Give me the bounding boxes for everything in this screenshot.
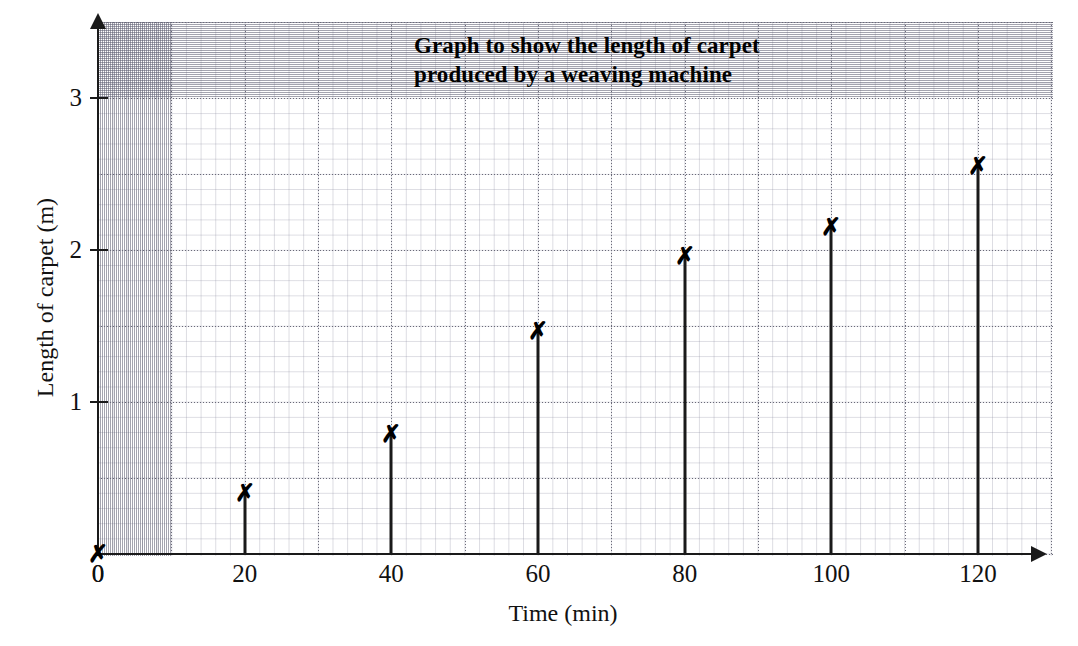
chart-page: Graph to show the length of carpet produ… [0,0,1078,646]
x-axis-title: Time (min) [0,600,1078,627]
data-stem [390,434,393,554]
gridline-horizontal [98,98,1053,99]
y-axis-tick [90,401,108,403]
y-axis-tick [90,97,108,99]
gridline-vertical [318,22,319,556]
x-axis-tick-label: 120 [959,560,997,588]
x-axis-tick-label: 60 [526,560,551,588]
gridline-vertical [611,22,612,556]
y-axis-tick-label: 2 [56,236,82,264]
chart-title-line-2: produced by a weaving machine [414,61,760,90]
graph-paper-background [98,22,1053,556]
gridline-horizontal [98,250,1053,251]
gridline-vertical [245,22,246,556]
gridline-vertical [171,22,172,556]
chart-title-line-1: Graph to show the length of carpet [414,32,760,61]
gridline-vertical [758,22,759,556]
gridline-vertical [465,22,466,556]
gridline-vertical [905,22,906,556]
data-stem [537,331,540,554]
x-axis-tick-label: 20 [232,560,257,588]
gridline-vertical [1051,22,1052,556]
x-axis-tick-label: 40 [379,560,404,588]
data-stem [977,166,980,554]
y-axis-line [97,28,99,555]
gridline-horizontal [98,326,1053,327]
y-axis-tick-label: 1 [56,388,82,416]
data-stem [243,493,246,554]
x-axis-tick-label: 100 [813,560,851,588]
chart-title: Graph to show the length of carpet produ… [414,32,760,90]
data-stem [683,256,686,554]
x-axis-tick-label: 80 [672,560,697,588]
origin-label: 0 [92,560,105,588]
data-stem [830,227,833,554]
x-axis-title-text: Time (min) [508,600,617,626]
y-axis-arrow-icon [90,13,106,29]
y-axis-tick [90,249,108,251]
x-axis-line [98,553,1036,555]
gridline-horizontal [98,174,1053,175]
x-axis-arrow-icon [1031,546,1047,562]
gridline-horizontal [98,22,1053,23]
y-axis-tick-label: 3 [56,84,82,112]
gridline-horizontal [98,478,1053,479]
gridline-horizontal [98,402,1053,403]
y-axis-title: Length of carpet (m) [32,133,59,463]
